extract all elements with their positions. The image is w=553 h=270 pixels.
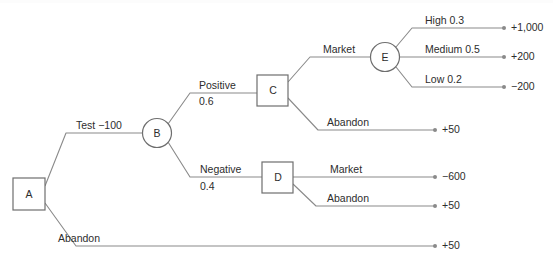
node-label-d: D [274,172,282,183]
endpoint-dot-low [502,85,506,89]
outcome-high: +1,000 [511,22,543,33]
edge-label-negative: Negative [200,163,241,176]
edge-label-abandon-d: Abandon [327,192,369,205]
node-label-e: E [381,52,388,63]
edge-label-low: Low 0.2 [425,73,462,86]
edge-label-positive-prob: 0.6 [199,95,214,108]
endpoint-dot-abandon-a [433,244,437,248]
edge-label-abandon-c: Abandon [327,116,369,129]
edge-label-abandon-a: Abandon [58,232,100,245]
outcome-medium: +200 [511,51,535,62]
endpoint-dot-abandon-d [433,204,437,208]
tree-edges-layer [0,0,553,270]
decision-tree-diagram: A B C D E Test −100 Positive 0.6 Negativ… [0,0,553,270]
edge-label-negative-prob: 0.4 [200,180,215,193]
node-label-b: B [153,128,160,139]
edge-label-test: Test −100 [76,119,122,132]
node-label-c: C [269,85,277,96]
outcome-abandon-a: +50 [442,240,460,251]
outcome-low: −200 [511,81,535,92]
edge-a-abandon [45,203,434,246]
edge-label-medium: Medium 0.5 [425,43,480,56]
node-label-a: A [25,189,32,200]
endpoint-dot-abandon-c [433,128,437,132]
edge-label-market-d: Market [330,163,362,176]
endpoint-dot-high [502,26,506,30]
edge-label-high: High 0.3 [425,14,464,27]
edge-a-to-b [45,133,143,186]
outcome-abandon-c: +50 [442,124,460,135]
edge-label-positive: Positive [199,79,236,92]
endpoint-dot-medium [502,55,506,59]
edge-label-market-c: Market [323,43,355,56]
outcome-market-d: −600 [442,171,466,182]
endpoint-dot-market-d [433,175,437,179]
edge-c-to-e [288,57,371,82]
outcome-abandon-d: +50 [442,200,460,211]
